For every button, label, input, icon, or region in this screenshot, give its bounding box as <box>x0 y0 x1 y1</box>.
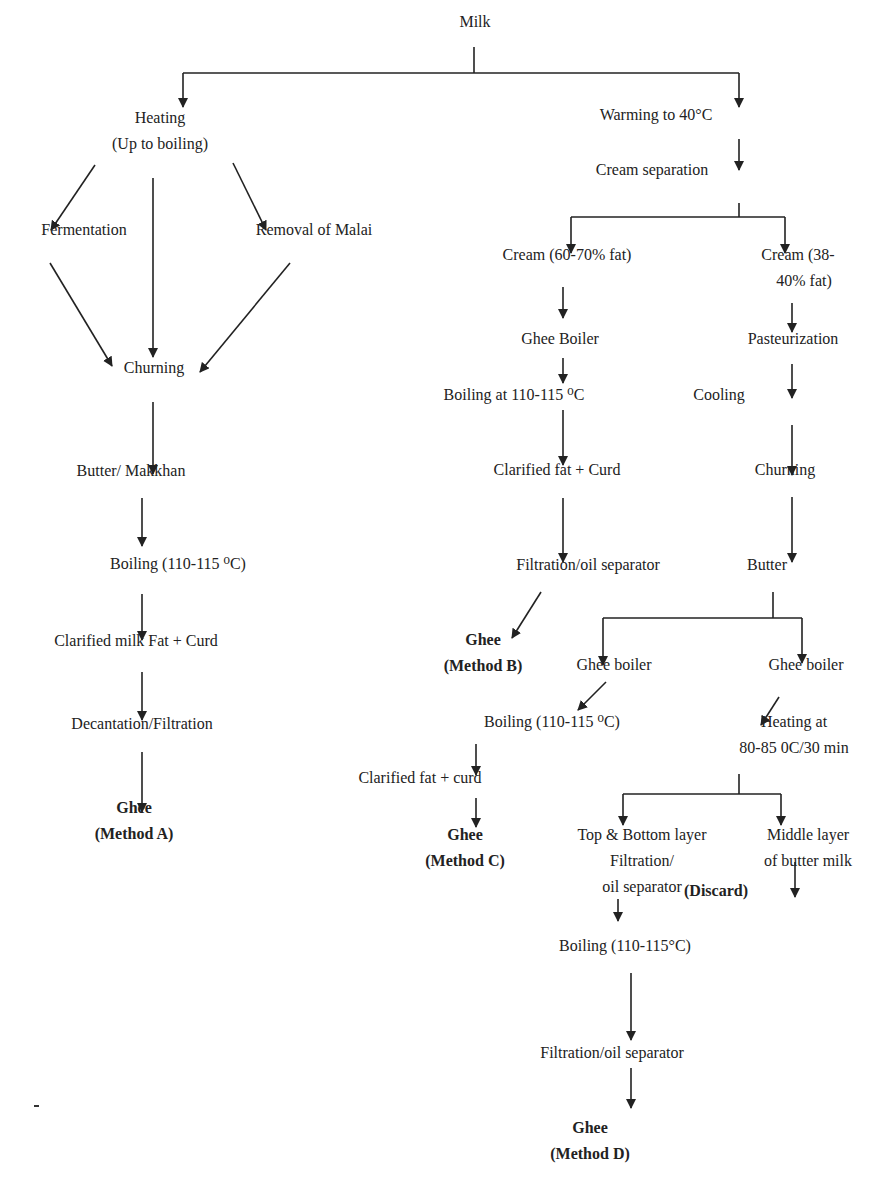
node-label-line: Cream (38- <box>761 242 834 268</box>
node-churning-d: Churning <box>755 457 815 483</box>
stray-dash-mark <box>34 1105 39 1107</box>
node-butter-makkhan: Butter/ Makkhan <box>77 458 186 484</box>
node-label-line: Cream (60-70% fat) <box>503 242 632 268</box>
node-decantation: Decantation/Filtration <box>71 711 212 737</box>
node-ghee-boiler-b: Ghee Boiler <box>521 326 599 352</box>
node-label-line: 40% fat) <box>761 268 834 294</box>
node-label-line: Top & Bottom layer <box>577 822 706 848</box>
node-boiling-a: Boiling (110-115 ⁰C) <box>110 551 246 577</box>
node-ghee-boiler-c: Ghee boiler <box>576 652 651 678</box>
node-label-line: Filtration/oil separator <box>540 1040 684 1066</box>
node-label-line: Heating <box>112 105 208 131</box>
node-label-line: Ghee boiler <box>768 652 843 678</box>
node-label-line: Cooling <box>693 382 745 408</box>
node-discard: (Discard) <box>684 878 748 904</box>
node-cooling: Cooling <box>693 382 745 408</box>
node-heating-d: Heating at80-85 0C/30 min <box>739 709 848 761</box>
node-boiling-c: Boiling (110-115 ⁰C) <box>484 709 620 735</box>
node-boiling-b: Boiling at 110-115 ⁰C <box>444 382 585 408</box>
node-label-line: Churning <box>755 457 815 483</box>
node-removal-malai: Removal of Malai <box>256 217 372 243</box>
node-label-line: Ghee <box>444 627 523 653</box>
node-label-line: Removal of Malai <box>256 217 372 243</box>
node-cream-38-40: Cream (38- 40% fat) <box>761 242 834 294</box>
node-label-line: Heating at <box>739 709 848 735</box>
node-label-line: Ghee boiler <box>576 652 651 678</box>
arrow-connector <box>200 263 290 372</box>
arrow-connector <box>578 682 606 710</box>
node-butter: Butter <box>747 552 787 578</box>
node-label-line: Ghee Boiler <box>521 326 599 352</box>
node-cream-separation: Cream separation <box>596 157 708 183</box>
node-clarified-a: Clarified milk Fat + Curd <box>54 628 218 654</box>
arrow-connector <box>50 263 112 366</box>
node-label-line: 80-85 0C/30 min <box>739 735 848 761</box>
node-label-line: Ghee <box>425 822 505 848</box>
node-label-line: Boiling (110-115 ⁰C) <box>110 551 246 577</box>
node-label-line: (Method B) <box>444 653 523 679</box>
node-filtration-b: Filtration/oil separator <box>516 552 660 578</box>
node-ghee-a: Ghee(Method A) <box>95 795 174 847</box>
node-label-line: Warming to 40°C <box>600 102 713 128</box>
node-filtration-d: Filtration/oil separator <box>540 1040 684 1066</box>
node-pasteurization: Pasteurization <box>748 326 839 352</box>
node-fermentation: Fermentation <box>41 217 126 243</box>
node-label-line: Filtration/oil separator <box>516 552 660 578</box>
node-label-line: Cream separation <box>596 157 708 183</box>
node-ghee-b: Ghee(Method B) <box>444 627 523 679</box>
node-label-line: Filtration/ <box>577 848 706 874</box>
node-label-line: Clarified fat + curd <box>358 765 481 791</box>
node-label-line: Boiling at 110-115 ⁰C <box>444 382 585 408</box>
node-label-line: Clarified fat + Curd <box>494 457 621 483</box>
node-clarified-c: Clarified fat + curd <box>358 765 481 791</box>
node-label-line: (Up to boiling) <box>112 131 208 157</box>
node-label-line: Ghee <box>95 795 174 821</box>
node-label-line: Boiling (110-115 ⁰C) <box>484 709 620 735</box>
node-boiling-d: Boiling (110-115°C) <box>559 933 691 959</box>
node-churning-a: Churning <box>124 355 184 381</box>
node-label-line: Ghee <box>550 1115 630 1141</box>
node-ghee-c: Ghee(Method C) <box>425 822 505 874</box>
node-clarified-b: Clarified fat + Curd <box>494 457 621 483</box>
node-cream-60-70: Cream (60-70% fat) <box>503 242 632 268</box>
node-ghee-boiler-d: Ghee boiler <box>768 652 843 678</box>
node-ghee-d: Ghee(Method D) <box>550 1115 630 1167</box>
node-label-line: Middle layer <box>764 822 852 848</box>
node-label-line: (Method A) <box>95 821 174 847</box>
ghee-flowchart: MilkHeating(Up to boiling)FermentationRe… <box>0 0 877 1189</box>
node-label-line: Fermentation <box>41 217 126 243</box>
node-label-line: of butter milk <box>764 848 852 874</box>
node-label-line: Butter/ Makkhan <box>77 458 186 484</box>
node-milk: Milk <box>459 9 490 35</box>
node-heating: Heating(Up to boiling) <box>112 105 208 157</box>
node-label-line: Milk <box>459 9 490 35</box>
node-middle-layer: Middle layerof butter milk <box>764 822 852 874</box>
flowchart-connectors <box>0 0 877 1189</box>
node-label-line: Decantation/Filtration <box>71 711 212 737</box>
node-label-line: Clarified milk Fat + Curd <box>54 628 218 654</box>
node-label-line: Churning <box>124 355 184 381</box>
node-label-line: Pasteurization <box>748 326 839 352</box>
node-label-line: (Method D) <box>550 1141 630 1167</box>
node-warming: Warming to 40°C <box>600 102 713 128</box>
node-label-line: (Method C) <box>425 848 505 874</box>
node-label-line: Butter <box>747 552 787 578</box>
node-label-line: (Discard) <box>684 878 748 904</box>
node-label-line: Boiling (110-115°C) <box>559 933 691 959</box>
